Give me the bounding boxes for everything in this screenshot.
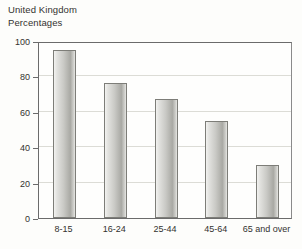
y-tick-label: 100 (0, 37, 30, 47)
x-axis-label: 45-64 (190, 224, 241, 235)
x-axis-label: 8-15 (38, 224, 89, 235)
y-tick-label: 0 (0, 214, 30, 224)
x-axis-label: 65 and over (241, 224, 292, 235)
chart-subtitle: Percentages (8, 17, 62, 29)
page-title: United Kingdom (8, 4, 77, 16)
bar (53, 50, 76, 218)
y-tick-label: 60 (0, 108, 30, 118)
plot-area (38, 42, 292, 219)
x-axis-label: 16-24 (89, 224, 140, 235)
y-tick-label: 80 (0, 72, 30, 82)
bar (155, 99, 178, 218)
y-tick-label: 40 (0, 143, 30, 153)
bar (104, 83, 127, 218)
y-tick-label: 20 (0, 179, 30, 189)
bar (205, 121, 228, 218)
x-axis-label: 25-44 (140, 224, 191, 235)
gridline (39, 75, 291, 76)
y-tick-mark (33, 219, 38, 220)
bar-chart: United Kingdom Percentages 020406080100 … (0, 0, 302, 249)
bar (256, 165, 279, 218)
